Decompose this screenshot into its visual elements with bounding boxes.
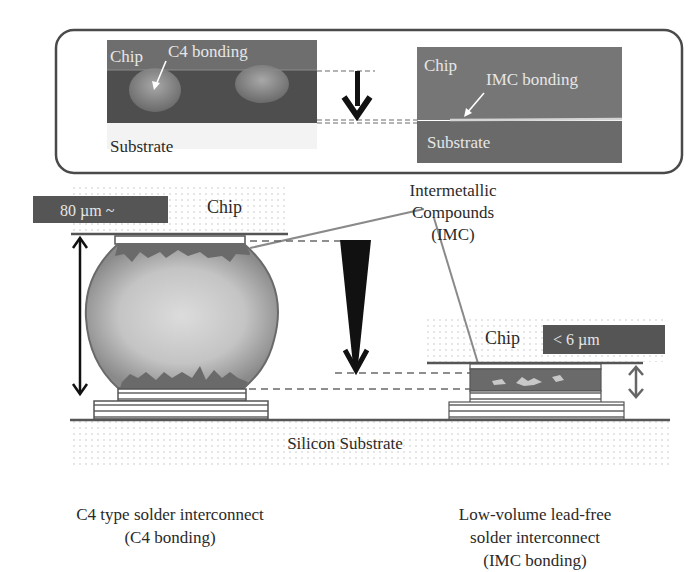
reduction-down-arrow-icon bbox=[340, 240, 371, 370]
c4-micrograph-bonding-label: C4 bonding bbox=[168, 42, 248, 61]
imc-label-line3: (IMC) bbox=[431, 225, 474, 244]
right-chip-label: Chip bbox=[485, 328, 520, 348]
imc-solder-joint bbox=[449, 364, 624, 419]
c4-caption-line2: (C4 bonding) bbox=[40, 526, 300, 549]
left-height-badge-text: 80 µm ~ bbox=[60, 202, 115, 220]
imc-caption-line2: solder interconnect bbox=[415, 526, 655, 549]
c4-caption-line1: C4 type solder interconnect bbox=[40, 503, 300, 526]
imc-caption-line1: Low-volume lead-free bbox=[415, 503, 655, 526]
imc-label-line2: Compounds bbox=[412, 203, 494, 222]
imc-micrograph-chip-label: Chip bbox=[424, 56, 457, 75]
c4-micrograph-substrate-label: Substrate bbox=[110, 137, 173, 156]
imc-label-line1: Intermetallic bbox=[410, 181, 497, 200]
c4-caption: C4 type solder interconnect (C4 bonding) bbox=[40, 503, 300, 549]
imc-caption-line3: (IMC bonding) bbox=[415, 549, 655, 572]
c4-solder-ball bbox=[86, 236, 278, 419]
left-chip-label: Chip bbox=[207, 197, 242, 217]
silicon-substrate-label: Silicon Substrate bbox=[287, 434, 403, 453]
c4-micrograph-chip-label: Chip bbox=[110, 47, 143, 66]
imc-micrograph-substrate-label: Substrate bbox=[427, 133, 490, 152]
right-height-badge-text: < 6 µm bbox=[553, 331, 600, 349]
right-height-double-arrow-icon bbox=[629, 367, 643, 397]
imc-micrograph-bonding-label: IMC bonding bbox=[486, 70, 579, 89]
imc-caption: Low-volume lead-free solder interconnect… bbox=[415, 503, 655, 572]
